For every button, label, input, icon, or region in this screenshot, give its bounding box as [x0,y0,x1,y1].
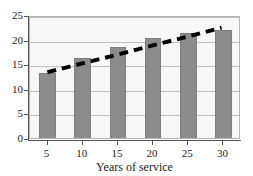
y-tick-label: 10 [1,84,23,95]
y-tick-label: 0 [1,133,23,144]
y-axis-line [28,16,29,140]
x-tick-label: 30 [207,147,237,159]
bar-chart: 0510152025 51015202530 Years of service [0,0,253,176]
x-tick-mark [47,141,48,145]
x-tick-label: 25 [172,147,202,159]
x-tick-label: 5 [32,147,62,159]
bar [180,33,197,138]
y-tick-label: 15 [1,59,23,70]
bars-layer [30,17,239,138]
x-tick-label: 20 [137,147,167,159]
bar [110,47,127,139]
bar [74,58,91,138]
y-tick-mark [24,90,29,91]
bar [145,38,162,138]
x-tick-mark [82,141,83,145]
y-tick-mark [24,16,29,17]
x-axis-title: Years of service [29,161,240,174]
x-tick-mark [117,141,118,145]
y-tick-label: 5 [1,108,23,119]
y-tick-mark [24,114,29,115]
bar [39,73,56,138]
x-tick-mark [187,141,188,145]
x-axis-line [28,140,241,141]
bar [215,30,232,138]
y-tick-label: 20 [1,35,23,46]
x-tick-mark [222,141,223,145]
y-tick-mark [24,41,29,42]
y-tick-label: 25 [1,10,23,21]
x-tick-mark [152,141,153,145]
x-tick-label: 15 [102,147,132,159]
y-tick-mark [24,65,29,66]
plot-area [29,16,240,139]
x-tick-label: 10 [67,147,97,159]
